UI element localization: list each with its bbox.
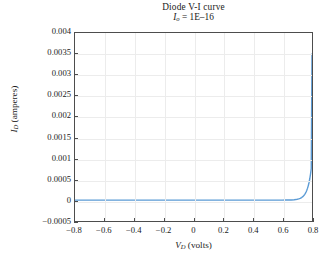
chart-title: Diode V-I curve — [74, 2, 313, 12]
x-axis-label: VD (volts) — [74, 240, 313, 250]
gridline-horizontal — [75, 139, 312, 140]
gridline-vertical — [105, 33, 106, 221]
x-tick-mark — [223, 218, 224, 222]
subtitle-value: = 1E–16 — [182, 12, 214, 22]
chart-subtitle: Io = 1E–16 — [74, 12, 313, 23]
gridline-vertical — [224, 33, 225, 221]
y-tick-label: 0.002 — [52, 110, 71, 120]
y-tick-mark — [74, 222, 78, 223]
y-tick-label: 0.004 — [52, 26, 71, 36]
y-tick-mark — [74, 53, 78, 54]
y-tick-mark — [74, 74, 78, 75]
x-tick-mark — [134, 218, 135, 222]
gridline-horizontal — [75, 117, 312, 118]
x-tick-label: 0.8 — [293, 225, 331, 235]
x-tick-mark — [74, 218, 75, 222]
y-tick-label: 0.001 — [52, 153, 71, 163]
gridline-horizontal — [75, 75, 312, 76]
gridline-horizontal — [75, 160, 312, 161]
xlabel-units: (volts) — [188, 240, 212, 250]
x-tick-mark — [194, 218, 195, 222]
y-tick-mark — [74, 159, 78, 160]
y-tick-label: 0.0005 — [47, 174, 71, 184]
ylabel-units: (amperes) — [9, 86, 19, 123]
gridline-vertical — [135, 33, 136, 221]
ylabel-symbol: I — [9, 129, 19, 132]
x-tick-mark — [104, 218, 105, 222]
gridline-horizontal — [75, 181, 312, 182]
gridline-vertical — [195, 33, 196, 221]
y-tick-mark — [74, 116, 78, 117]
y-axis-label: ID (amperes) — [9, 49, 19, 169]
gridline-vertical — [254, 33, 255, 221]
chart-title-block: Diode V-I curve Io = 1E–16 — [74, 2, 313, 23]
gridline-horizontal — [75, 202, 312, 203]
xlabel-subscript: D — [181, 243, 186, 250]
gridline-horizontal — [75, 96, 312, 97]
plot-area — [74, 32, 313, 222]
subtitle-subscript: o — [176, 16, 179, 23]
gridline-vertical — [284, 33, 285, 221]
ylabel-subscript: D — [12, 125, 19, 130]
y-tick-mark — [74, 138, 78, 139]
y-tick-mark — [74, 95, 78, 96]
x-tick-mark — [283, 218, 284, 222]
y-tick-label: 0.0015 — [47, 132, 71, 142]
y-tick-label: 0.0025 — [47, 89, 71, 99]
x-tick-mark — [253, 218, 254, 222]
y-tick-label: 0 — [67, 195, 71, 205]
y-tick-label: 0.003 — [52, 68, 71, 78]
y-tick-mark — [74, 201, 78, 202]
x-tick-mark — [164, 218, 165, 222]
gridline-vertical — [165, 33, 166, 221]
diode-vi-curve-figure: Diode V-I curve Io = 1E–16 ID (amperes) … — [0, 0, 331, 264]
y-tick-mark — [74, 32, 78, 33]
gridline-horizontal — [75, 54, 312, 55]
y-tick-mark — [74, 180, 78, 181]
x-tick-mark — [313, 218, 314, 222]
diode-curve — [75, 33, 312, 221]
y-tick-label: 0.0035 — [47, 47, 71, 57]
